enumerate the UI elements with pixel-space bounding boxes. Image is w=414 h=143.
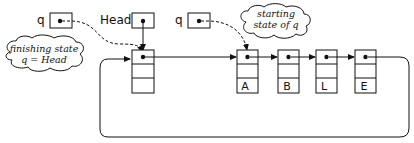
node-value: A xyxy=(241,80,249,93)
link-dot xyxy=(363,55,367,59)
cloud-finishing-state: finishing state q = Head xyxy=(6,35,83,71)
pointer-q-starting: q xyxy=(175,13,247,50)
dashed-arrow-to-node-a xyxy=(201,21,247,50)
node-l: L xyxy=(316,50,337,93)
pointer-q-label: q xyxy=(37,13,45,27)
node-e: E xyxy=(355,50,376,93)
node-value: L xyxy=(321,80,328,93)
cloud-text-line1: starting xyxy=(257,8,295,19)
link-dot xyxy=(245,55,249,59)
circular-linked-list-diagram: q finishing state q = Head Head q starti… xyxy=(0,0,414,143)
link-dot xyxy=(141,55,145,59)
pointer-q-label: q xyxy=(175,13,183,27)
node-b: B xyxy=(278,50,299,93)
node-value: B xyxy=(283,80,291,93)
cloud-text-line2: q = Head xyxy=(21,54,67,65)
pointer-head-label: Head xyxy=(100,13,131,27)
pointer-dot xyxy=(58,19,62,23)
cloud-text-line2: state of q xyxy=(253,19,298,30)
pointer-dot xyxy=(197,19,201,23)
node-value: E xyxy=(361,80,368,93)
node-header xyxy=(132,50,154,93)
node-a: A xyxy=(237,50,258,93)
link-dot xyxy=(324,55,328,59)
cloud-text-line1: finishing state xyxy=(9,43,79,54)
cloud-starting-state: starting state of q xyxy=(241,4,310,39)
link-dot xyxy=(286,55,290,59)
